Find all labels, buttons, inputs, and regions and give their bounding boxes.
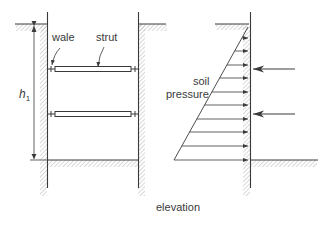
caption-elevation: elevation [156,202,200,213]
soil-label: soil [193,76,210,87]
pressure-label: pressure [166,89,209,100]
strut-label: strut [96,32,117,43]
left-excavation [15,12,167,196]
strut-upper [48,66,138,72]
h1-label: h1 [19,88,30,103]
ground-hatch-bottom [251,160,317,167]
pressure-diagram [174,12,318,196]
wale-leader [52,48,60,65]
excavation-diagram [0,0,333,225]
floor-hatch [48,160,138,167]
strut-lower [48,111,138,117]
wall-hatch-left [40,24,47,196]
wall-hatch [243,26,250,196]
wale-label: wale [52,32,75,43]
h-subscript: 1 [26,94,30,103]
strut-leader [98,47,104,67]
h-symbol: h [19,87,26,101]
ground-hatch-right [139,24,167,31]
